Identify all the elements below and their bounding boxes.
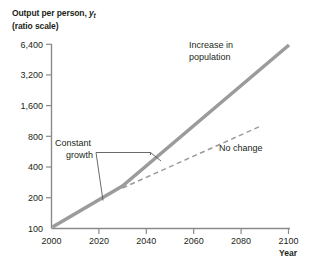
annotation-increase-in-population: Increase in population (189, 40, 233, 62)
annotation-no-change-line1: No change (219, 143, 263, 153)
y-tick-label-200: 200 (28, 193, 43, 203)
x-axis-label: Year (279, 248, 298, 258)
y-axis-tick-labels: 6,400 3,200 1,600 800 400 200 100 (20, 40, 43, 234)
annotation-increase-in-population-line2: population (189, 52, 231, 62)
x-axis-ticks (99, 229, 289, 235)
x-tick-label-2060: 2060 (184, 236, 204, 246)
series-no-change (123, 126, 263, 189)
y-axis-ticks (46, 44, 52, 197)
series-increase-in-population (53, 45, 290, 227)
y-tick-label-800: 800 (28, 132, 43, 142)
annotation-constant-growth-line2: growth (66, 150, 93, 160)
constant-growth-leader-top (96, 153, 151, 156)
x-tick-label-2040: 2040 (136, 236, 156, 246)
x-axis-tick-labels: 2000 2020 2040 2060 2080 2100 (41, 236, 298, 246)
y-tick-label-6400: 6,400 (20, 40, 43, 50)
y-tick-label-3200: 3,200 (20, 70, 43, 80)
chart-figure: Output per person, yt (ratio scale) 6,40… (0, 0, 320, 264)
annotation-constant-growth-line1: Constant (55, 138, 92, 148)
constant-growth-leader-left (96, 153, 103, 201)
y-tick-label-1600: 1,600 (20, 101, 43, 111)
y-tick-label-100: 100 (28, 224, 43, 234)
x-tick-label-2000: 2000 (41, 236, 61, 246)
chart-canvas: 6,400 3,200 1,600 800 400 200 100 2000 2… (0, 0, 320, 264)
x-tick-label-2100: 2100 (278, 236, 298, 246)
x-tick-label-2080: 2080 (231, 236, 251, 246)
annotation-constant-growth: Constant growth (55, 138, 93, 160)
x-tick-label-2020: 2020 (89, 236, 109, 246)
annotation-no-change: No change (219, 143, 263, 153)
annotation-increase-in-population-line1: Increase in (189, 40, 233, 50)
y-tick-label-400: 400 (28, 162, 43, 172)
